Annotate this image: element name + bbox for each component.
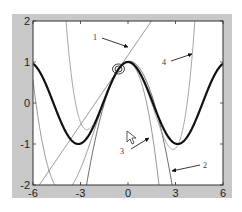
y-tick-label: 2: [24, 15, 30, 27]
y-tick-label: 0: [24, 97, 30, 109]
y-tick-label: -1: [20, 138, 30, 150]
figure: -6-3036210-1-2 1432: [0, 0, 242, 212]
y-tick-label: -2: [20, 179, 30, 191]
annotation-label-3: 3: [120, 147, 124, 156]
annotation-label-4: 4: [162, 58, 166, 67]
x-tick-label: 3: [172, 187, 178, 199]
axes-area: [33, 21, 223, 185]
annotation-label-1: 1: [93, 33, 97, 42]
x-tick-label: 6: [220, 187, 226, 199]
annotation-label-2: 2: [203, 161, 207, 170]
y-tick-label: 1: [24, 56, 30, 68]
x-tick-label: -3: [76, 187, 86, 199]
x-tick-label: 0: [125, 187, 131, 199]
